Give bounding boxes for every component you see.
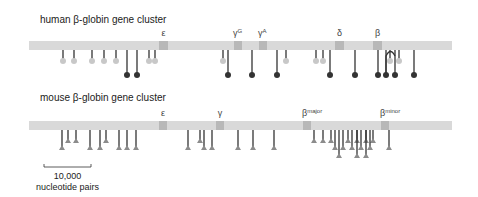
major-hypersensitive-site: [375, 72, 381, 78]
site-triangle: [345, 138, 351, 143]
site-triangle: [370, 138, 376, 143]
gene-box: [381, 121, 389, 130]
site-triangle: [124, 145, 130, 150]
site-triangle: [87, 145, 93, 150]
site-triangle: [209, 145, 215, 150]
minor-hypersensitive-site: [396, 58, 402, 64]
site-triangle: [336, 153, 342, 158]
major-hypersensitive-site: [411, 72, 417, 78]
site-triangle: [116, 145, 122, 150]
mouse-cluster-title: mouse β-globin gene cluster: [40, 92, 166, 103]
mouse-gene-track: εγβmajorβminor: [29, 108, 452, 158]
gene-label: δ: [337, 28, 342, 38]
minor-hypersensitive-site: [101, 58, 107, 64]
site-triangle: [367, 145, 373, 150]
site-triangle: [271, 145, 277, 150]
minor-hypersensitive-site: [152, 58, 158, 64]
scale-label-value: 10,000: [54, 171, 82, 181]
minor-hypersensitive-site: [220, 58, 226, 64]
minor-hypersensitive-site: [313, 58, 319, 64]
major-hypersensitive-site: [134, 72, 140, 78]
gene-label: β: [375, 28, 380, 38]
minor-hypersensitive-site: [71, 58, 77, 64]
gene-box: [259, 41, 267, 50]
gene-label: ε: [161, 28, 165, 38]
minor-hypersensitive-site: [320, 58, 326, 64]
human-gene-track: εγGγAδβ: [29, 28, 452, 78]
minor-hypersensitive-site: [146, 58, 152, 64]
site-triangle: [250, 145, 256, 150]
gene-box: [159, 41, 168, 50]
site-triangle: [386, 145, 392, 150]
scale-label-unit: nucleotide pairs: [36, 182, 100, 192]
site-triangle: [185, 145, 191, 150]
minor-hypersensitive-site: [60, 58, 66, 64]
major-hypersensitive-site: [274, 72, 280, 78]
gene-box: [335, 41, 344, 50]
site-triangle: [354, 153, 360, 158]
scale-bar: 10,000 nucleotide pairs: [36, 164, 100, 192]
human-cluster-title: human β-globin gene cluster: [40, 14, 167, 25]
minor-hypersensitive-site: [89, 58, 95, 64]
site-triangle: [332, 145, 338, 150]
gene-box: [234, 41, 242, 50]
major-hypersensitive-site: [225, 72, 231, 78]
site-triangle: [328, 138, 334, 143]
site-triangle: [59, 145, 65, 150]
gene-label: βminor: [380, 108, 400, 118]
site-triangle: [65, 138, 71, 143]
gene-label: βmajor: [302, 108, 322, 118]
site-triangle: [235, 145, 241, 150]
gene-box: [303, 121, 311, 130]
gene-label: γG: [233, 28, 243, 38]
site-triangle: [73, 138, 79, 143]
major-hypersensitive-site: [352, 72, 358, 78]
site-triangle: [133, 145, 139, 150]
gene-label: ε: [161, 108, 165, 118]
gene-label: γ: [218, 108, 223, 118]
gene-box: [159, 121, 167, 130]
site-triangle: [349, 145, 355, 150]
scale-bracket: [44, 164, 91, 167]
beta-globin-cluster-diagram: human β-globin gene cluster εγGγAδβ mous…: [0, 0, 478, 197]
site-triangle: [201, 145, 207, 150]
site-triangle: [363, 153, 369, 158]
minor-hypersensitive-site: [283, 58, 289, 64]
site-triangle: [320, 138, 326, 143]
gene-box: [373, 41, 382, 50]
major-hypersensitive-site: [249, 72, 255, 78]
minor-hypersensitive-site: [387, 58, 393, 64]
major-hypersensitive-site: [327, 72, 333, 78]
site-triangle: [97, 145, 103, 150]
site-triangle: [358, 145, 364, 150]
major-hypersensitive-site: [392, 72, 398, 78]
site-triangle: [197, 138, 203, 143]
minor-hypersensitive-site: [113, 58, 119, 64]
site-triangle: [311, 138, 317, 143]
site-triangle: [340, 145, 346, 150]
major-hypersensitive-site: [124, 72, 130, 78]
gene-box: [216, 121, 224, 130]
gene-label: γA: [258, 28, 267, 38]
site-triangle: [103, 138, 109, 143]
